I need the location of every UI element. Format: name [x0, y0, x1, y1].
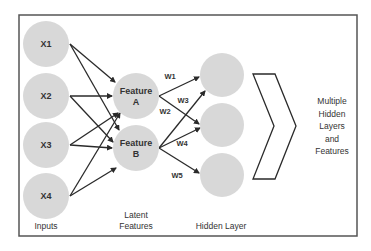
weight-label-w5: W5: [171, 171, 182, 180]
input-to-feature-edges: [70, 44, 120, 196]
side-text-line-5: Features: [315, 146, 349, 156]
input-node-x3: X3: [23, 122, 69, 168]
latent-features-caption-line2: Features: [119, 221, 153, 231]
edge-x1-fa: [70, 44, 115, 82]
hidden-node-h2-circle: [200, 103, 244, 147]
side-text-line-1: Multiple: [317, 96, 347, 106]
feature-node-fb: FeatureB: [113, 125, 159, 171]
chevron-arrow-icon: [253, 74, 296, 179]
feature-node-fa-label-line1: Feature: [120, 86, 153, 96]
input-node-x4-label: X4: [40, 191, 51, 201]
hidden-layer-caption: Hidden Layer: [196, 221, 247, 231]
hidden-node-h1: [200, 53, 244, 97]
neural-network-diagram: W1W2W3W4W5 X1X2X3X4 FeatureAFeatureB Mul…: [0, 0, 371, 251]
edge-x4-fa: [70, 113, 120, 196]
hidden-node-h2: [200, 103, 244, 147]
input-layer: X1X2X3X4: [23, 21, 69, 219]
feature-node-fb-circle: [113, 125, 159, 171]
input-node-x1: X1: [23, 21, 69, 67]
edge-w5: [159, 148, 199, 173]
edge-x4-fb: [70, 168, 116, 196]
side-text-line-3: Layers: [319, 121, 345, 131]
latent-features-layer: FeatureAFeatureB: [113, 73, 159, 171]
latent-features-caption-line1: Latent: [124, 210, 148, 220]
input-node-x4: X4: [23, 173, 69, 219]
side-text-line-2: Hidden: [319, 109, 346, 119]
feature-node-fa-circle: [113, 73, 159, 119]
input-node-x2-label: X2: [40, 91, 51, 101]
feature-node-fa: FeatureA: [113, 73, 159, 119]
hidden-layer: [200, 53, 244, 197]
weight-label-w2: W2: [159, 107, 170, 116]
weight-label-w1: W1: [164, 72, 175, 81]
input-node-x1-label: X1: [40, 39, 51, 49]
feature-node-fa-label-line2: A: [133, 97, 140, 107]
hidden-node-h3-circle: [200, 153, 244, 197]
input-node-x2: X2: [23, 73, 69, 119]
edge-x3-fb: [70, 145, 112, 148]
multiple-hidden-layers-label: MultipleHiddenLayersandFeatures: [315, 96, 349, 156]
feature-node-fb-label-line1: Feature: [120, 138, 153, 148]
hidden-node-h1-circle: [200, 53, 244, 97]
inputs-caption: Inputs: [34, 221, 57, 231]
weight-label-w3: W3: [177, 96, 188, 105]
hidden-node-h3: [200, 153, 244, 197]
feature-to-hidden-edges: W1W2W3W4W5: [159, 72, 205, 180]
side-text-line-4: and: [325, 134, 339, 144]
weight-label-w4: W4: [176, 139, 188, 148]
feature-node-fb-label-line2: B: [133, 149, 140, 159]
input-node-x3-label: X3: [40, 140, 51, 150]
diagram-frame: [19, 15, 357, 236]
